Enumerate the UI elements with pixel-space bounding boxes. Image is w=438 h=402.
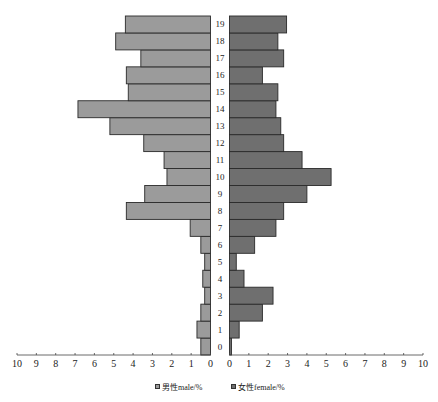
male-swatch-icon: [155, 384, 160, 389]
female-bar-age-16: [230, 67, 263, 84]
female-bar-age-2: [230, 304, 263, 321]
male-bar-age-13: [110, 118, 211, 135]
age-category-labels: 012345678910111213141516171819: [216, 19, 226, 351]
tick-label: 10: [418, 358, 428, 369]
age-label: 3: [218, 291, 223, 301]
male-bars: [78, 16, 211, 355]
female-bar-age-7: [230, 219, 276, 236]
male-bar-age-5: [205, 253, 211, 270]
age-label: 10: [216, 172, 226, 182]
tick-label: 4: [131, 358, 136, 369]
tick-label: 1: [189, 358, 194, 369]
female-bar-age-1: [230, 321, 240, 338]
male-bar-age-17: [141, 50, 211, 67]
male-bar-age-0: [201, 338, 211, 355]
tick-label: 8: [53, 358, 58, 369]
legend-label-male: 男性male/%: [162, 381, 202, 392]
age-label: 8: [218, 206, 223, 216]
female-bars: [230, 16, 332, 355]
male-bar-age-10: [167, 169, 211, 186]
age-label: 11: [216, 155, 225, 165]
female-bar-age-11: [230, 152, 303, 169]
male-bar-age-6: [201, 236, 211, 253]
age-label: 12: [216, 138, 225, 148]
age-label: 4: [218, 274, 223, 284]
tick-label: 0: [227, 358, 232, 369]
legend-item-male: 男性male/%: [155, 381, 202, 392]
tick-label: 6: [92, 358, 97, 369]
age-label: 2: [218, 308, 223, 318]
tick-label: 2: [169, 358, 174, 369]
tick-label: 1: [246, 358, 251, 369]
age-label: 5: [218, 257, 223, 267]
male-bar-age-19: [125, 16, 210, 33]
tick-label: 3: [150, 358, 155, 369]
tick-label: 3: [285, 358, 290, 369]
male-bar-age-4: [203, 270, 211, 287]
female-bar-age-14: [230, 101, 276, 118]
female-swatch-icon: [231, 384, 236, 389]
tick-label: 9: [34, 358, 39, 369]
tick-label: 10: [12, 358, 22, 369]
legend: 男性male/% 女性female/%: [0, 381, 438, 395]
age-label: 15: [216, 87, 226, 97]
male-bar-age-7: [190, 219, 210, 236]
tick-label: 4: [304, 358, 309, 369]
tick-label: 6: [343, 358, 348, 369]
age-label: 16: [216, 70, 226, 80]
tick-label: 0: [208, 358, 213, 369]
female-bar-age-17: [230, 50, 284, 67]
tick-label: 2: [266, 358, 271, 369]
male-bar-age-3: [205, 287, 211, 304]
male-bar-age-12: [144, 135, 211, 152]
female-bar-age-18: [230, 33, 278, 50]
tick-label: 5: [324, 358, 329, 369]
male-bar-age-16: [126, 67, 210, 84]
female-bar-age-6: [230, 236, 255, 253]
female-bar-age-19: [230, 16, 287, 33]
female-bar-age-5: [230, 253, 237, 270]
male-bar-age-18: [116, 33, 211, 50]
male-x-axis: 109876543210: [12, 353, 213, 369]
male-bar-age-1: [197, 321, 211, 338]
legend-item-female: 女性female/%: [231, 381, 285, 392]
female-bar-age-10: [230, 169, 332, 186]
age-label: 0: [218, 342, 223, 352]
age-label: 6: [218, 240, 223, 250]
tick-label: 5: [111, 358, 116, 369]
female-bar-age-8: [230, 202, 284, 219]
tick-label: 9: [401, 358, 406, 369]
male-bar-age-8: [126, 202, 210, 219]
female-bar-age-4: [230, 270, 245, 287]
age-label: 18: [216, 36, 226, 46]
male-bar-age-15: [128, 84, 210, 101]
age-label: 19: [216, 19, 226, 29]
legend-label-female: 女性female/%: [238, 381, 285, 392]
age-label: 9: [218, 189, 223, 199]
age-label: 14: [216, 104, 226, 114]
age-label: 7: [218, 223, 223, 233]
age-label: 13: [216, 121, 226, 131]
female-bar-age-0: [230, 338, 232, 355]
population-pyramid-chart: 012345678910111213141516171819 109876543…: [0, 0, 438, 402]
age-label: 1: [218, 325, 223, 335]
female-bar-age-15: [230, 84, 278, 101]
tick-label: 7: [362, 358, 367, 369]
female-x-axis: 012345678910: [227, 353, 428, 369]
age-label: 17: [216, 53, 226, 63]
female-bar-age-12: [230, 135, 284, 152]
male-bar-age-14: [78, 101, 211, 118]
female-bar-age-3: [230, 287, 274, 304]
tick-label: 7: [73, 358, 78, 369]
tick-label: 8: [382, 358, 387, 369]
male-bar-age-2: [201, 304, 211, 321]
male-bar-age-11: [164, 152, 210, 169]
male-bar-age-9: [145, 186, 211, 203]
female-bar-age-13: [230, 118, 281, 135]
female-bar-age-9: [230, 186, 307, 203]
